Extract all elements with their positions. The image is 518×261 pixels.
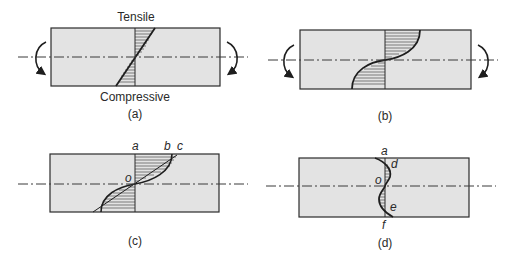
caption-c: (c) xyxy=(128,234,142,248)
point-label-b-c: b xyxy=(164,139,171,153)
point-label-o-c: o xyxy=(125,171,132,185)
point-label-f-d: f xyxy=(382,218,387,232)
point-label-a-c: a xyxy=(132,139,139,153)
panel-a: Tensile Compressive (a) xyxy=(18,10,248,121)
point-label-a-d: a xyxy=(381,144,388,158)
point-label-c-c: c xyxy=(177,139,183,153)
point-label-o-d: o xyxy=(375,173,382,187)
caption-d: (d) xyxy=(378,236,393,250)
panel-c: a b c o (c) xyxy=(18,139,248,248)
stress-diagram-figure: Tensile Compressive (a) (b) xyxy=(0,0,518,261)
caption-b: (b) xyxy=(378,109,393,123)
point-label-d-d: d xyxy=(391,157,398,171)
panel-b: (b) xyxy=(268,30,498,123)
tensile-label: Tensile xyxy=(117,10,155,24)
panel-d: a d o e f (d) xyxy=(266,144,496,250)
caption-a: (a) xyxy=(128,107,143,121)
point-label-e-d: e xyxy=(390,200,397,214)
compressive-label: Compressive xyxy=(100,90,170,104)
